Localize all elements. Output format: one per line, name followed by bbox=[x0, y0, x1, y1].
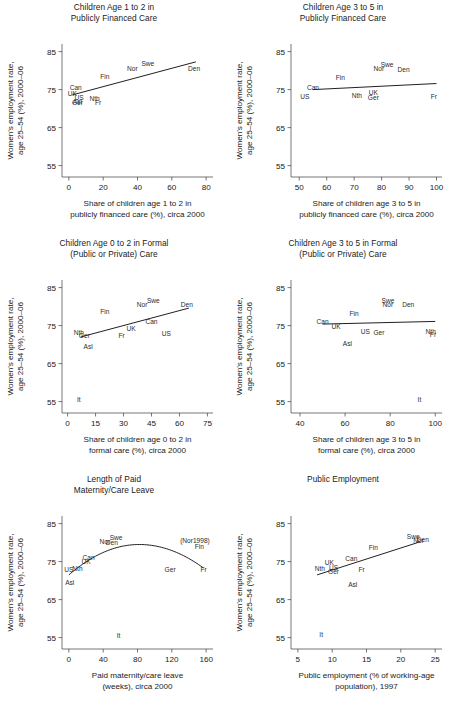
data-point-label: Fr bbox=[430, 331, 437, 338]
x-tick-label: 80 bbox=[386, 419, 396, 428]
x-tick-label: 60 bbox=[167, 183, 177, 192]
x-axis-title-line1: Share of children age 3 to 5 in bbox=[313, 199, 421, 208]
x-tick-label: 160 bbox=[199, 655, 213, 664]
x-tick-label: 60 bbox=[322, 183, 332, 192]
data-point-label: US bbox=[300, 93, 310, 100]
chart-panel-4: Children Age 3 to 5 in Formal(Public or … bbox=[229, 236, 457, 472]
x-axis-title-line2: publicly financed care (%), circa 2000 bbox=[299, 210, 434, 219]
data-point-label: Fin bbox=[369, 544, 378, 551]
y-tick-label: 75 bbox=[276, 322, 286, 331]
y-axis-title-line2: age 25–54 (%), 2000–06 bbox=[245, 301, 254, 391]
data-point-label: Fin bbox=[350, 310, 359, 317]
data-point-label: Ger bbox=[373, 329, 385, 336]
x-axis-title-line1: Share of children age 1 to 2 in bbox=[84, 199, 192, 208]
y-tick-label: 65 bbox=[276, 124, 286, 133]
y-tick-label: 65 bbox=[276, 596, 286, 605]
chart-panel-1: Children Age 1 to 2 inPublicly Financed … bbox=[0, 0, 228, 236]
y-tick-label: 85 bbox=[47, 520, 57, 529]
data-point-label: Fr bbox=[359, 566, 366, 573]
y-tick-label: 75 bbox=[47, 558, 57, 567]
y-tick-label: 55 bbox=[276, 162, 286, 171]
y-axis-title-line2: age 25–54 (%), 2000–06 bbox=[16, 65, 25, 155]
data-point-label: Den bbox=[402, 301, 414, 308]
y-tick-label: 55 bbox=[276, 634, 286, 643]
data-point-label: Fr bbox=[119, 332, 126, 339]
x-tick-label: 20 bbox=[99, 183, 109, 192]
data-point-label: Swe bbox=[141, 60, 154, 67]
y-tick-label: 55 bbox=[47, 398, 57, 407]
data-point-label: It bbox=[418, 396, 422, 403]
data-point-label: Can bbox=[145, 318, 157, 325]
x-tick-label: 120 bbox=[165, 655, 179, 664]
data-point-label: Can bbox=[316, 318, 328, 325]
y-axis-title: Women's employment rate,age 25–54 (%), 2… bbox=[235, 297, 254, 395]
data-point-label: Ger bbox=[79, 332, 91, 339]
chart-panel-3: Children Age 0 to 2 in Formal(Public or … bbox=[0, 236, 228, 472]
y-tick-label: 85 bbox=[47, 48, 57, 57]
y-tick-label: 85 bbox=[276, 284, 286, 293]
data-point-label: It bbox=[117, 632, 121, 639]
x-tick-label: 0 bbox=[65, 419, 70, 428]
data-point-label: Nth bbox=[72, 565, 83, 572]
y-axis-title-line1: Women's employment rate, bbox=[235, 297, 244, 395]
data-point-label: Swe bbox=[381, 61, 394, 68]
data-point-label: Ger bbox=[368, 94, 380, 101]
data-point-label: Fin bbox=[195, 543, 204, 550]
plot-area: 55657585510152025NthUKUSGerItCanAslFrFin… bbox=[229, 472, 457, 708]
data-point-label: Den bbox=[188, 65, 200, 72]
x-axis-title-line2: formal care (%), circa 2000 bbox=[318, 446, 416, 455]
plot-area: 5565758501530456075NthGerAslItFinFrUKNor… bbox=[0, 236, 228, 472]
data-point-label: Fr bbox=[431, 93, 438, 100]
x-axis-title-line1: Paid maternity/care leave bbox=[92, 671, 184, 680]
y-tick-label: 85 bbox=[276, 48, 286, 57]
x-tick-label: 20 bbox=[396, 655, 406, 664]
x-axis-title-line1: Share of children age 0 to 2 in bbox=[84, 435, 192, 444]
data-point-label: Fin bbox=[336, 74, 345, 81]
x-tick-label: 30 bbox=[119, 419, 129, 428]
x-tick-label: 80 bbox=[202, 183, 212, 192]
chart-panel-6: Public Employment55657585510152025NthUKU… bbox=[229, 472, 457, 708]
data-point-label: Den bbox=[398, 66, 410, 73]
data-point-label: Asl bbox=[343, 340, 353, 347]
plot-area: 55657585020406080CanUKUSAslGerNthFrFinNo… bbox=[0, 0, 228, 236]
y-axis-title-line1: Women's employment rate, bbox=[6, 61, 15, 159]
y-axis-title-line2: age 25–54 (%), 2000–06 bbox=[245, 65, 254, 155]
x-axis-title-line2: (weeks), circa 2000 bbox=[102, 682, 173, 691]
y-tick-label: 55 bbox=[276, 398, 286, 407]
data-point-label: Fr bbox=[200, 566, 207, 573]
data-point-label: Ger bbox=[328, 568, 340, 575]
y-tick-label: 65 bbox=[47, 124, 57, 133]
y-tick-label: 75 bbox=[276, 86, 286, 95]
x-axis-title-line1: Public employment (% of working-age bbox=[299, 671, 435, 680]
data-point-label: Fin bbox=[100, 73, 109, 80]
x-tick-label: 40 bbox=[99, 655, 109, 664]
data-point-label: Asl bbox=[348, 581, 358, 588]
x-tick-label: 80 bbox=[377, 183, 387, 192]
plot-area: 5565758504080120160USAslNthUKCanNorDenSw… bbox=[0, 472, 228, 708]
y-tick-label: 65 bbox=[276, 360, 286, 369]
y-tick-label: 85 bbox=[47, 284, 57, 293]
data-point-label: Den bbox=[181, 301, 193, 308]
data-point-label: Ger bbox=[165, 566, 177, 573]
data-point-label: US bbox=[361, 328, 371, 335]
x-tick-label: 70 bbox=[350, 183, 360, 192]
x-tick-label: 0 bbox=[67, 655, 72, 664]
plot-area: 55657585406080100CanUKFinUSAslGerSweNorD… bbox=[229, 236, 457, 472]
x-tick-label: 75 bbox=[203, 419, 213, 428]
x-tick-label: 100 bbox=[430, 183, 444, 192]
data-point-label: Swe bbox=[147, 297, 160, 304]
y-tick-label: 75 bbox=[47, 322, 57, 331]
x-tick-label: 60 bbox=[341, 419, 351, 428]
data-point-label: Nor bbox=[383, 301, 394, 308]
y-axis-title-line1: Women's employment rate, bbox=[6, 533, 15, 631]
x-tick-label: 25 bbox=[431, 655, 441, 664]
data-point-label: Asl bbox=[84, 343, 94, 350]
data-point-label: It bbox=[319, 631, 323, 638]
data-point-label: Nth bbox=[315, 565, 326, 572]
data-point-label: Nor bbox=[127, 65, 138, 72]
y-axis-title-line1: Women's employment rate, bbox=[235, 533, 244, 631]
x-tick-label: 80 bbox=[133, 655, 143, 664]
x-axis-title-line1: Share of children age 3 to 5 in bbox=[313, 435, 421, 444]
x-tick-label: 60 bbox=[175, 419, 185, 428]
x-tick-label: 10 bbox=[328, 655, 338, 664]
